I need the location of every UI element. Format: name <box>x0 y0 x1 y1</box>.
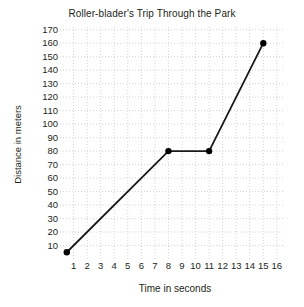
chart-container: Roller-blader's Trip Through the Park Di… <box>0 0 304 307</box>
y-axis-tick-label: 90 <box>24 133 58 143</box>
y-axis-tick-label: 150 <box>24 52 58 62</box>
y-axis-tick-label: 60 <box>24 173 58 183</box>
y-axis-tick-label: 40 <box>24 200 58 210</box>
y-axis-tick-label: 20 <box>24 227 58 237</box>
chart-svg <box>60 27 285 259</box>
y-axis-tick-label: 100 <box>24 119 58 129</box>
y-axis-tick-label: 10 <box>24 241 58 251</box>
y-axis-tick-label: 80 <box>24 146 58 156</box>
y-axis-tick-label: 130 <box>24 79 58 89</box>
series-line <box>67 43 264 252</box>
data-point-marker <box>206 148 212 154</box>
data-point-marker <box>165 148 171 154</box>
y-axis-tick-label: 70 <box>24 160 58 170</box>
y-axis-tick-label: 50 <box>24 187 58 197</box>
y-axis-tick-label: 30 <box>24 214 58 224</box>
x-axis-label: Time in seconds <box>55 283 295 294</box>
x-axis-tick-labels: 12345678910111213141516 <box>60 261 295 275</box>
y-axis-tick-label: 170 <box>24 25 58 35</box>
y-axis-tick-label: 120 <box>24 92 58 102</box>
data-point-marker <box>260 40 266 46</box>
data-series <box>67 43 264 252</box>
y-axis-tick-label: 110 <box>24 106 58 116</box>
data-point-marker <box>64 249 70 255</box>
y-axis-tick-label: 160 <box>24 38 58 48</box>
x-axis-tick-label: 16 <box>269 261 285 271</box>
plot-area <box>60 27 285 259</box>
y-axis-tick-labels: 1020304050607080901001101201301401501601… <box>20 27 58 259</box>
chart-title: Roller-blader's Trip Through the Park <box>0 8 304 19</box>
y-axis-tick-label: 140 <box>24 65 58 75</box>
